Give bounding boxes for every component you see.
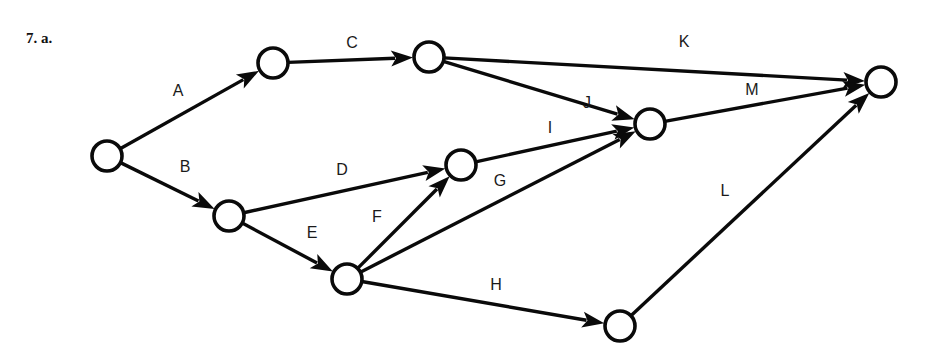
edge-label-g: G	[494, 172, 506, 189]
edge-d	[244, 172, 428, 212]
edge-h	[362, 282, 587, 321]
edge-label-m: M	[745, 81, 758, 98]
node-n4	[214, 201, 244, 231]
edge-f	[358, 189, 437, 268]
edge-label-f: F	[372, 208, 382, 225]
edge-label-j: J	[583, 94, 591, 111]
arrowhead-icon	[236, 71, 259, 89]
node-n5	[446, 150, 476, 180]
edge-label-e: E	[307, 224, 318, 241]
edge-c	[288, 58, 395, 62]
node-n6	[332, 264, 362, 294]
edge-l	[631, 105, 856, 316]
edge-label-i: I	[548, 119, 552, 136]
node-n1	[92, 141, 122, 171]
node-n2	[258, 48, 288, 78]
edge-label-l: L	[721, 182, 730, 199]
edge-label-h: H	[490, 276, 502, 293]
edge-j	[443, 61, 617, 114]
edge-label-d: D	[336, 161, 348, 178]
nodes-layer	[92, 42, 896, 341]
node-n7	[635, 109, 665, 139]
edge-i	[476, 131, 617, 162]
edge-label-a: A	[173, 82, 184, 99]
network-diagram: ABCDEFGHIJKLM	[0, 0, 930, 355]
node-n8	[605, 311, 635, 341]
edge-label-k: K	[679, 33, 690, 50]
node-n3	[414, 42, 444, 72]
edge-label-b: B	[180, 158, 191, 175]
node-n9	[866, 67, 896, 97]
edge-k	[444, 58, 847, 80]
edge-label-c: C	[346, 34, 358, 51]
